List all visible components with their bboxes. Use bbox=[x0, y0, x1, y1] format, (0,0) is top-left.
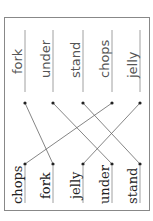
bottom-word: stand bbox=[125, 168, 140, 204]
matching-diagram: fork under stand chops jelly chops fork … bbox=[0, 0, 153, 221]
top-word: fork bbox=[10, 48, 25, 74]
match-lines bbox=[25, 103, 140, 164]
bottom-word: jelly bbox=[68, 171, 83, 201]
top-word: chops bbox=[97, 39, 112, 78]
top-word: stand bbox=[68, 42, 83, 78]
bottom-word: chops bbox=[10, 166, 25, 204]
bottom-word: fork bbox=[38, 172, 53, 199]
bottom-word: under bbox=[97, 164, 112, 204]
top-word: under bbox=[38, 39, 53, 78]
top-word-column: fork under stand chops jelly bbox=[10, 30, 140, 92]
bottom-word-column: chops fork jelly under stand bbox=[10, 164, 140, 204]
top-word: jelly bbox=[125, 51, 140, 79]
